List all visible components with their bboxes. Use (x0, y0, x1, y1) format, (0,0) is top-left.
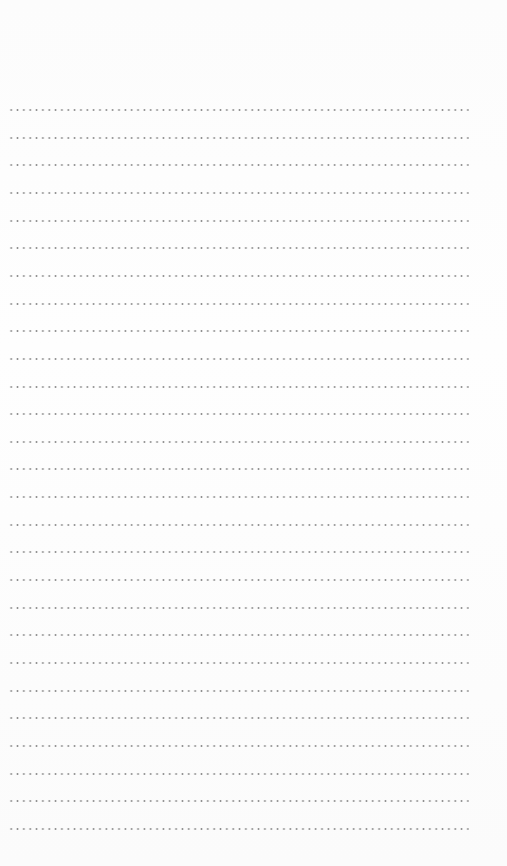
dotted-writing-line (8, 192, 469, 194)
dotted-writing-line (8, 607, 469, 609)
dotted-writing-line (8, 551, 469, 553)
dotted-writing-line (8, 109, 469, 111)
dotted-writing-line (8, 303, 469, 305)
dotted-writing-line (8, 690, 469, 692)
dotted-writing-line (8, 524, 469, 526)
dotted-writing-line (8, 358, 469, 360)
dotted-writing-line (8, 137, 469, 139)
dotted-writing-line (8, 634, 469, 636)
dotted-writing-line (8, 441, 469, 443)
dotted-writing-line (8, 413, 469, 415)
dotted-writing-line (8, 164, 469, 166)
dotted-writing-line (8, 386, 469, 388)
dotted-writing-line (8, 828, 469, 830)
dotted-writing-line (8, 275, 469, 277)
dotted-writing-line (8, 662, 469, 664)
dotted-writing-line (8, 468, 469, 470)
dotted-writing-line (8, 773, 469, 775)
dotted-writing-line (8, 247, 469, 249)
dotted-writing-line (8, 717, 469, 719)
dotted-writing-line (8, 330, 469, 332)
dotted-writing-line (8, 745, 469, 747)
dotted-writing-line (8, 579, 469, 581)
dotted-writing-line (8, 800, 469, 802)
dotted-writing-line (8, 220, 469, 222)
notepad-page (0, 0, 507, 866)
dotted-lines-container (0, 0, 507, 866)
dotted-writing-line (8, 496, 469, 498)
